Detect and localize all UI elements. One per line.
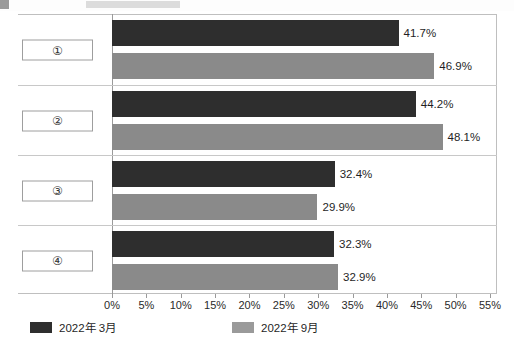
- bar-value-label: 32.3%: [339, 238, 372, 250]
- category-label-box: ②: [22, 110, 93, 131]
- scan-artifact-strip: [0, 0, 514, 11]
- legend-item: 2022年 9月: [232, 319, 318, 335]
- x-axis-tick: [215, 294, 216, 298]
- x-axis-tick: [112, 294, 113, 298]
- bar-series-2-category-3: 29.9%: [112, 194, 317, 220]
- x-axis-tick-label: 35%: [342, 299, 364, 311]
- category-label-box: ④: [22, 250, 93, 271]
- chart-category-row: ②44.2%48.1%: [18, 85, 497, 155]
- chart-category-row: ④32.3%32.9%: [18, 225, 497, 295]
- legend-label: 2022年 9月: [261, 319, 318, 335]
- bar-series-2-category-1: 46.9%: [112, 53, 434, 79]
- x-axis-tick: [353, 294, 354, 298]
- legend-swatch-dark: [30, 322, 52, 333]
- bar-series-2-category-4: 32.9%: [112, 264, 338, 290]
- bar-value-label: 46.9%: [439, 60, 472, 72]
- x-axis-tick-label: 50%: [445, 299, 467, 311]
- bar-series-1-category-3: 32.4%: [112, 161, 335, 187]
- x-axis-tick-label: 25%: [273, 299, 295, 311]
- x-axis-tick-label: 40%: [376, 299, 398, 311]
- x-axis-tick-label: 10%: [170, 299, 192, 311]
- x-axis-tick-label: 15%: [204, 299, 226, 311]
- bar-value-label: 44.2%: [421, 98, 454, 110]
- x-axis-tick: [387, 294, 388, 298]
- bar-series-1-category-1: 41.7%: [112, 20, 399, 46]
- bar-value-label: 32.4%: [340, 168, 373, 180]
- x-axis-tick: [181, 294, 182, 298]
- category-label-box: ③: [22, 180, 93, 201]
- bar-series-2-category-2: 48.1%: [112, 124, 443, 150]
- legend-label: 2022年 3月: [59, 319, 116, 335]
- bar-value-label: 32.9%: [343, 271, 376, 283]
- bar-value-label: 29.9%: [322, 201, 355, 213]
- legend-item: 2022年 3月: [30, 319, 116, 335]
- bar-value-label: 41.7%: [404, 27, 437, 39]
- chart-category-row: ③32.4%29.9%: [18, 155, 497, 225]
- chart-category-row: ①41.7%46.9%: [18, 15, 497, 85]
- x-axis: 0%5%10%15%20%25%30%35%40%45%50%55%: [18, 294, 497, 316]
- x-axis-tick-label: 45%: [410, 299, 432, 311]
- x-axis-tick-label: 55%: [479, 299, 501, 311]
- bar-series-1-category-2: 44.2%: [112, 91, 416, 117]
- x-axis-tick-label: 30%: [307, 299, 329, 311]
- category-label-box: ①: [22, 40, 93, 61]
- x-axis-tick: [284, 294, 285, 298]
- x-axis-tick-label: 20%: [238, 299, 260, 311]
- x-axis-tick: [456, 294, 457, 298]
- x-axis-tick-label: 5%: [138, 299, 154, 311]
- scan-mark-left: [0, 0, 9, 9]
- x-axis-tick-label: 0%: [104, 299, 120, 311]
- scan-mark-mid: [86, 1, 180, 8]
- chart-legend: 2022年 3月2022年 9月: [0, 319, 514, 335]
- x-axis-tick: [146, 294, 147, 298]
- bar-series-1-category-4: 32.3%: [112, 231, 334, 257]
- x-axis-tick: [490, 294, 491, 298]
- bar-value-label: 48.1%: [448, 131, 481, 143]
- x-axis-tick: [249, 294, 250, 298]
- x-axis-tick: [318, 294, 319, 298]
- legend-swatch-light: [232, 322, 254, 333]
- x-axis-tick: [421, 294, 422, 298]
